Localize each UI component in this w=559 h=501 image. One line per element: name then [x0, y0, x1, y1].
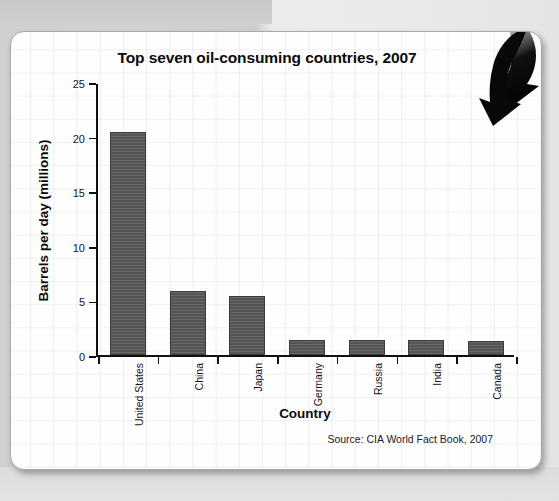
x-axis-tick	[337, 357, 339, 364]
bar-japan	[229, 296, 265, 355]
x-axis-tick	[277, 357, 279, 364]
plot-area: 0510152025	[96, 84, 514, 357]
x-axis-tick	[98, 357, 100, 364]
y-axis-line	[96, 84, 98, 357]
bar-united-states	[110, 132, 146, 355]
x-axis-category-label: India	[431, 363, 443, 386]
x-axis-category-label: Canada	[491, 363, 503, 400]
chart-card: Top seven oil-consuming countries, 2007 …	[10, 31, 542, 470]
y-axis-tick	[89, 192, 96, 194]
y-axis-tick-label: 15	[73, 187, 85, 199]
x-axis-tick	[217, 357, 219, 364]
x-axis-category-label: United States	[133, 363, 145, 426]
x-axis-tick	[456, 357, 458, 364]
x-axis-category-label: China	[193, 363, 205, 390]
x-axis-tick	[397, 357, 399, 364]
x-axis-category-label: Russia	[372, 363, 384, 395]
source-note: Source: CIA World Fact Book, 2007	[327, 433, 493, 445]
x-axis-category-label: Japan	[252, 363, 264, 392]
y-axis-title-label: Barrels per day (millions)	[36, 139, 51, 301]
y-axis-tick-label: 25	[73, 78, 85, 90]
x-axis-category-label: Germany	[312, 363, 324, 406]
y-axis-tick-label: 0	[79, 351, 85, 363]
bar-russia	[349, 340, 385, 355]
bar-germany	[289, 340, 325, 355]
screenshot-root: Top seven oil-consuming countries, 2007 …	[0, 0, 559, 501]
y-axis-tick	[89, 83, 96, 85]
y-axis-tick	[89, 247, 96, 249]
background-bottom-band	[0, 467, 559, 501]
chart-title: Top seven oil-consuming countries, 2007	[11, 49, 541, 67]
y-axis-tick	[89, 302, 96, 304]
x-axis-title: Country	[96, 406, 514, 421]
background-top-left-band	[0, 0, 272, 24]
y-axis-tick	[89, 356, 96, 358]
y-axis-tick	[89, 138, 96, 140]
bar-india	[408, 340, 444, 355]
bar-canada	[468, 341, 504, 355]
bar-china	[170, 291, 206, 355]
y-axis-title: Barrels per day (millions)	[33, 84, 53, 357]
x-axis-tick	[158, 357, 160, 364]
x-axis-tick	[516, 357, 518, 364]
y-axis-tick-label: 20	[73, 133, 85, 145]
y-axis-tick-label: 5	[79, 296, 85, 308]
y-axis-tick-label: 10	[73, 242, 85, 254]
